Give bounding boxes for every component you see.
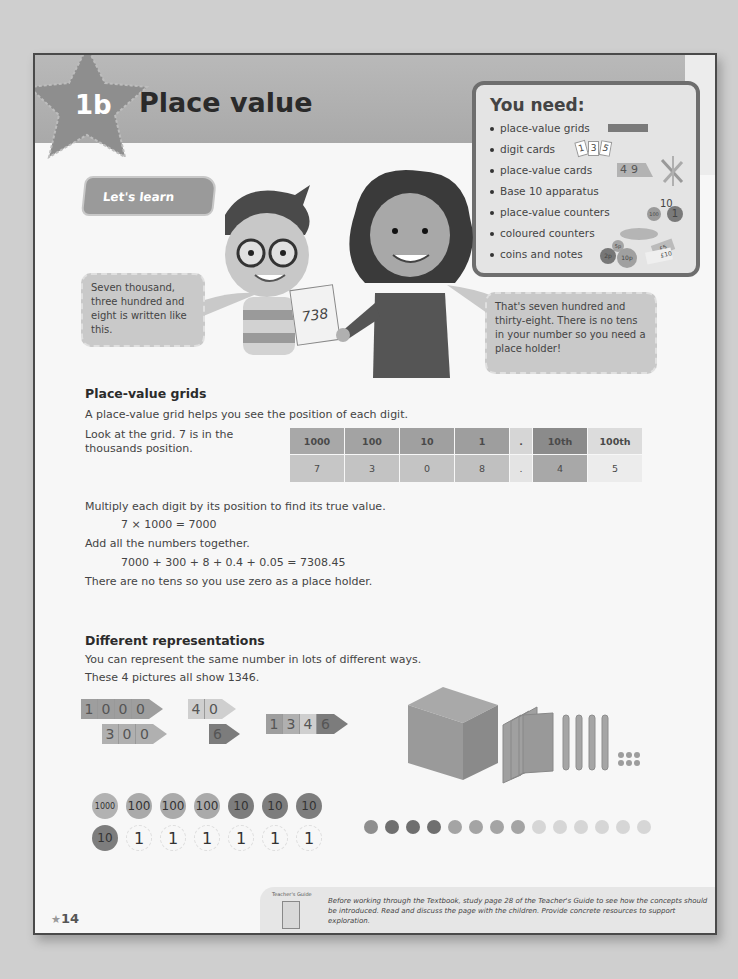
representations-subintro: These 4 pictures all show 1346.: [85, 670, 259, 686]
number-card-value: 738: [301, 305, 330, 325]
speech-tail-left: [201, 291, 261, 321]
dot-one: [574, 820, 588, 834]
textbook-page: 1b Place value You need: place-value gri…: [33, 53, 717, 935]
dot-thousand: [364, 820, 378, 834]
girl-illustration: [335, 163, 485, 378]
conclusion-text: There are no tens so you use zero as a p…: [85, 574, 372, 590]
need-item-label: coins and notes: [500, 248, 583, 260]
pv-counter-10: 10: [92, 825, 118, 851]
dot-one: [637, 820, 651, 834]
add-text: Add all the numbers together.: [85, 536, 250, 552]
need-item-label: coloured counters: [500, 227, 595, 239]
teachers-guide-text: Before working through the Textbook, stu…: [328, 896, 708, 926]
need-item-digit-cards: digit cards 1 3 5: [490, 139, 686, 160]
pv-value-point: .: [510, 455, 532, 482]
pv-counter-1: 1: [126, 825, 152, 851]
need-item-label: digit cards: [500, 143, 555, 155]
dot-one: [553, 820, 567, 834]
dot-hundred: [427, 820, 441, 834]
pv-header-1000: 1000: [290, 428, 344, 454]
representations-intro: You can represent the same number in lot…: [85, 652, 421, 668]
digit-cards-icon: 1 3 5: [576, 141, 611, 156]
dot-one: [595, 820, 609, 834]
pv-counter-1: 1: [262, 825, 288, 851]
place-value-grid: 1000 100 10 1 . 10th 100th 7 3 0 8 . 4 5: [290, 428, 642, 482]
pv-header-100th: 100th: [588, 428, 642, 454]
pv-counter-100: 100: [160, 793, 186, 819]
pv-header-point: .: [510, 428, 532, 454]
place-value-cards-icon: 49: [617, 163, 653, 177]
need-item-label: place-value counters: [500, 206, 610, 218]
pv-intro: A place-value grid helps you see the pos…: [85, 407, 408, 423]
boy-speech-bubble: Seven thousand, three hundred and eight …: [81, 273, 205, 347]
arrow-card-40: 4 0: [188, 699, 236, 719]
pv-value-1: 8: [455, 455, 509, 482]
pv-counter-10: 10: [262, 793, 288, 819]
teachers-guide-label: Teacher's Guide: [272, 891, 312, 897]
need-item-label: Base 10 apparatus: [500, 185, 599, 197]
need-item-place-value-grids: place-value grids: [490, 118, 686, 139]
need-item-base10: Base 10 apparatus: [490, 181, 686, 202]
book-icon: [282, 901, 300, 929]
pv-value-1000: 7: [290, 455, 344, 482]
pv-header-100: 100: [345, 428, 399, 454]
girl-speech-bubble: That's seven hundred and thirty-eight. T…: [485, 292, 657, 374]
pv-counter-10: 10: [296, 793, 322, 819]
arrow-card-6: 6: [209, 724, 240, 744]
pv-counter-100: 100: [126, 793, 152, 819]
page-title: Place value: [139, 87, 313, 118]
pv-counter-10: 10: [228, 793, 254, 819]
dot-hundred: [385, 820, 399, 834]
need-item-coins-notes: coins and notes 2p 5p 10p £5 £10: [490, 244, 686, 265]
pv-counter-1: 1: [160, 825, 186, 851]
need-item-pv-counters: place-value counters 100 10 1: [490, 202, 686, 223]
pv-header-10th: 10th: [533, 428, 587, 454]
dot-ten: [490, 820, 504, 834]
coins-notes-icon: 2p 5p 10p £5 £10: [600, 240, 690, 268]
pv-value-10: 0: [400, 455, 454, 482]
section-heading-representations: Different representations: [85, 633, 265, 648]
base10-blocks-illustration: [403, 685, 663, 785]
pv-value-10th: 4: [533, 455, 587, 482]
grid-strip-icon: [608, 124, 648, 132]
arrow-card-1346: 1 3 4 6: [266, 714, 348, 734]
you-need-title: You need:: [490, 95, 686, 115]
need-item-label: place-value grids: [500, 122, 590, 134]
pv-value-100: 3: [345, 455, 399, 482]
dot-one: [616, 820, 630, 834]
dot-hundred: [406, 820, 420, 834]
arrow-card-300: 3 0 0: [102, 724, 167, 744]
section-heading-pv-grids: Place-value grids: [85, 386, 206, 401]
dot-one: [532, 820, 546, 834]
pv-counter-1: 1: [228, 825, 254, 851]
pv-counter-100: 100: [194, 793, 220, 819]
dot-ten: [469, 820, 483, 834]
need-item-place-value-cards: place-value cards 49: [490, 160, 686, 181]
arrow-card-1000: 1 0 0 0: [81, 699, 163, 719]
pv-counter-1: 1: [194, 825, 220, 851]
need-item-label: place-value cards: [500, 164, 592, 176]
number-card: 738: [289, 284, 340, 346]
page-number: ★14: [51, 911, 79, 926]
dot-ten: [448, 820, 462, 834]
pv-counter-1000: 1000: [92, 793, 118, 819]
pv-counter-1: 1: [296, 825, 322, 851]
pv-value-100th: 5: [588, 455, 642, 482]
pv-counters-icon: 100 10 1: [647, 205, 687, 223]
multiply-text: Multiply each digit by its position to f…: [85, 499, 386, 515]
star-icon: ★: [51, 913, 61, 926]
teachers-guide-note: Teacher's Guide Before working through t…: [260, 887, 715, 935]
pv-header-10: 10: [400, 428, 454, 454]
coloured-counters-icon: [620, 228, 658, 240]
multiply-equation: 7 × 1000 = 7000: [121, 517, 216, 533]
pv-look-line-2: thousands position.: [85, 441, 193, 457]
dot-ten: [511, 820, 525, 834]
pv-header-1: 1: [455, 428, 509, 454]
add-equation: 7000 + 300 + 8 + 0.4 + 0.05 = 7308.45: [121, 555, 346, 571]
lesson-number: 1b: [75, 90, 112, 120]
you-need-box: You need: place-value grids digit cards …: [472, 81, 700, 277]
